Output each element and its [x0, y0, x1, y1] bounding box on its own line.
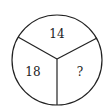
sector-left-value: 18 — [25, 65, 40, 79]
divider-right — [57, 38, 97, 59]
sector-top-value: 14 — [49, 27, 65, 41]
sector-right-value: ? — [77, 65, 83, 79]
circle-diagram: 14 18 ? — [0, 0, 109, 110]
